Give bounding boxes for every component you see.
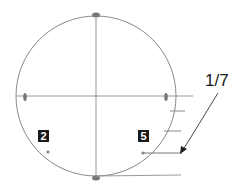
top-marker: [92, 13, 100, 18]
point-5-dot: [141, 151, 144, 154]
label-2-badge: 2: [38, 130, 49, 142]
right-marker: [164, 93, 168, 101]
arrow-line: [183, 93, 218, 150]
fraction-annotation: 1/7: [205, 71, 229, 91]
label-5-badge: 5: [138, 130, 149, 142]
left-marker: [23, 93, 27, 101]
circle-diagram: [0, 0, 241, 191]
point-2-dot: [46, 150, 49, 153]
arrow-head-icon: [180, 146, 187, 154]
